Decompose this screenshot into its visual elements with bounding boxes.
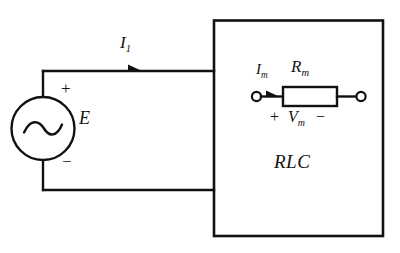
voltage-plus-sign: + — [270, 108, 279, 125]
rlc-box-label: RLC — [274, 151, 310, 173]
voltage-minus-sign: − — [316, 108, 325, 125]
voltage-vm-label: V — [288, 108, 298, 125]
current-i1-arrow-icon — [128, 65, 142, 78]
source-minus-sign: − — [62, 152, 72, 172]
measurement-left-terminal-icon — [252, 92, 261, 101]
voltage-vm-label-row: +Vm− — [270, 108, 325, 128]
circuit-diagram: I1 E + − Im Rm +Vm− RLC — [0, 0, 400, 253]
rlc-network-box — [214, 21, 383, 237]
current-im-arrow-icon — [266, 91, 279, 103]
measurement-right-terminal-icon — [356, 92, 365, 101]
current-i1-label: I1 — [120, 33, 131, 54]
source-plus-sign: + — [61, 79, 71, 99]
resistor-rm-body — [283, 87, 337, 106]
current-im-label: Im — [256, 61, 268, 80]
circuit-schematic-svg — [0, 0, 400, 253]
resistor-rm-label: Rm — [291, 57, 309, 78]
source-voltage-label: E — [79, 108, 90, 129]
